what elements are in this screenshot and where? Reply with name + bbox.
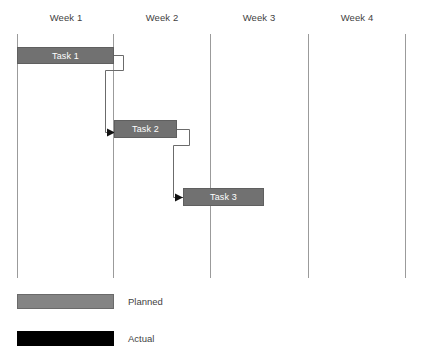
gridline-week-3 [308, 34, 309, 278]
connector-arrowhead-task3 [175, 194, 183, 202]
legend-label-actual: Actual [128, 333, 154, 345]
legend-swatch-actual [17, 331, 114, 346]
task-bar-label-task-2: Task 2 [132, 124, 159, 134]
week-header-3: Week 3 [243, 12, 276, 24]
legend-swatch-planned [17, 294, 114, 309]
gridline-week-2 [210, 34, 211, 278]
gridline-week-4 [405, 34, 406, 278]
gridline-week-0 [17, 34, 18, 278]
week-header-2: Week 2 [146, 12, 179, 24]
task-bar-task-3[interactable]: Task 3 [183, 188, 264, 206]
legend-label-planned: Planned [128, 296, 163, 308]
week-header-1: Week 1 [50, 12, 83, 24]
week-header-4: Week 4 [341, 12, 374, 24]
gridline-week-1 [113, 34, 114, 278]
task-bar-label-task-3: Task 3 [210, 192, 237, 202]
task-bar-task-1[interactable]: Task 1 [17, 47, 114, 64]
task-bar-task-2[interactable]: Task 2 [114, 120, 177, 138]
gantt-chart: Week 1 Week 2 Week 3 Week 4 Task 1 Task … [0, 0, 425, 364]
task-bar-label-task-1: Task 1 [52, 51, 79, 61]
